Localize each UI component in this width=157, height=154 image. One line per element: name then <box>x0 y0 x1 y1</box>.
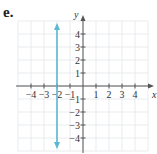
x-tick-label: 3 <box>120 89 125 100</box>
x-axis-label: x <box>151 89 157 100</box>
y-tick-label: 1 <box>75 68 80 79</box>
y-tick-label: −1 <box>69 94 80 105</box>
y-tick-label: 4 <box>75 29 80 40</box>
x-tick-label: −3 <box>39 89 50 100</box>
y-axis-arrow-icon <box>81 15 86 21</box>
x-tick-label: 4 <box>133 89 138 100</box>
x-axis-arrow-icon <box>148 84 154 89</box>
x-tick-label: −4 <box>26 89 37 100</box>
y-tick-label: −4 <box>69 133 80 144</box>
arrow-down-icon <box>54 142 60 149</box>
y-axis-label: y <box>73 9 79 20</box>
y-tick-label: 2 <box>75 55 80 66</box>
y-tick-label: −3 <box>69 120 80 131</box>
x-tick-label: 1 <box>94 89 99 100</box>
y-tick-label: 3 <box>75 42 80 53</box>
y-tick-label: −2 <box>69 107 80 118</box>
x-tick-label: 2 <box>107 89 112 100</box>
arrow-up-icon <box>54 23 60 30</box>
coordinate-plane: xy−4−3−2−11234−4−3−2−11234 <box>0 0 157 154</box>
